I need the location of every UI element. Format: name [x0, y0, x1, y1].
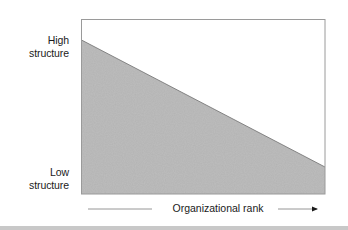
structure-rank-diagram: [0, 0, 348, 230]
bottom-divider: [0, 226, 348, 230]
structure-area: [82, 40, 326, 194]
x-axis-label: Organizational rank: [158, 202, 278, 215]
